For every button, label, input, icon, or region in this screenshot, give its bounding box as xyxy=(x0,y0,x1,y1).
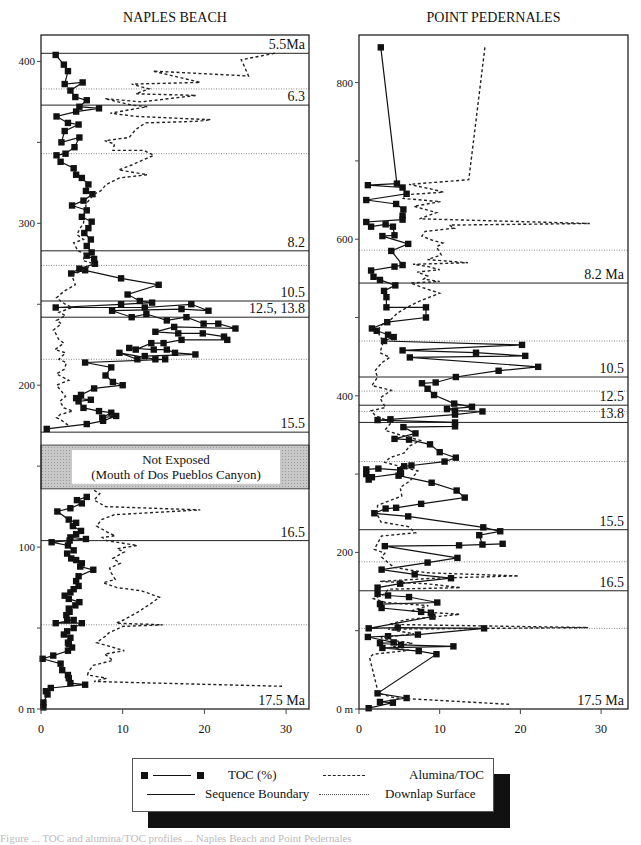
toc-marker xyxy=(64,617,70,623)
toc-marker xyxy=(96,105,102,111)
toc-marker xyxy=(68,270,74,276)
toc-marker xyxy=(70,523,76,529)
toc-marker xyxy=(83,536,89,542)
toc-marker xyxy=(79,175,85,181)
toc-marker xyxy=(88,218,94,224)
toc-marker xyxy=(100,418,106,424)
toc-marker xyxy=(232,325,238,331)
toc-marker xyxy=(70,165,76,171)
age-label: 8.2 Ma xyxy=(584,267,624,282)
toc-marker xyxy=(453,487,459,493)
toc-marker xyxy=(365,705,371,711)
toc-marker xyxy=(385,592,391,598)
age-label: 10.5 xyxy=(281,285,306,300)
toc-marker xyxy=(61,61,67,67)
toc-marker-icon xyxy=(197,772,204,779)
toc-marker xyxy=(128,314,134,320)
toc-marker xyxy=(205,308,211,314)
age-label: 12.5, 13.8 xyxy=(249,301,305,316)
toc-marker xyxy=(65,648,71,654)
toc-marker xyxy=(73,531,79,537)
toc-marker xyxy=(476,532,482,538)
toc-marker xyxy=(84,421,90,427)
toc-marker xyxy=(400,206,406,212)
toc-marker xyxy=(419,380,425,386)
toc-marker xyxy=(381,288,387,294)
toc-marker xyxy=(65,68,71,74)
toc-marker xyxy=(164,346,170,352)
toc-marker xyxy=(164,317,170,323)
toc-marker xyxy=(432,379,438,385)
toc-marker xyxy=(171,324,177,330)
toc-marker xyxy=(53,620,59,626)
alumina-toc-series xyxy=(53,53,274,425)
y-tick-label: 0 m xyxy=(336,703,353,715)
toc-marker xyxy=(405,241,411,247)
y-tick-label: 0 m xyxy=(18,703,35,715)
toc-marker xyxy=(415,631,421,637)
toc-marker xyxy=(70,617,76,623)
toc-marker xyxy=(469,404,475,410)
toc-marker xyxy=(160,340,166,346)
y-tick-label: 800 xyxy=(337,77,354,89)
toc-marker xyxy=(118,301,124,307)
toc-marker xyxy=(133,346,139,352)
toc-marker xyxy=(406,594,412,600)
toc-marker xyxy=(61,81,67,87)
x-tick-label: 20 xyxy=(198,722,210,736)
toc-marker xyxy=(383,294,389,300)
toc-marker xyxy=(391,232,397,238)
toc-marker xyxy=(44,691,50,697)
toc-marker xyxy=(53,113,59,119)
toc-marker xyxy=(452,411,458,417)
toc-marker xyxy=(79,500,85,506)
toc-marker xyxy=(473,350,479,356)
legend: TOC (%) Alumina/TOC Sequence Boundary Do… xyxy=(132,758,494,812)
age-label: 5.5Ma xyxy=(269,37,306,52)
toc-marker xyxy=(369,474,375,480)
toc-marker xyxy=(497,528,503,534)
toc-marker xyxy=(72,94,78,100)
toc-marker xyxy=(72,602,78,608)
toc-marker xyxy=(58,139,64,145)
toc-marker xyxy=(462,494,468,500)
naples-beach-chart: NAPLES BEACHNot Exposed(Mouth of Dos Pue… xyxy=(18,10,309,736)
toc-marker xyxy=(148,340,154,346)
toc-marker xyxy=(70,625,76,631)
toc-marker xyxy=(200,330,206,336)
toc-marker xyxy=(378,605,384,611)
toc-marker xyxy=(126,345,132,351)
toc-marker xyxy=(109,308,115,314)
toc-marker xyxy=(379,645,385,651)
y-tick-label: 400 xyxy=(337,390,354,402)
x-tick-label: 30 xyxy=(595,722,607,736)
toc-marker xyxy=(82,359,88,365)
toc-marker xyxy=(175,330,181,336)
toc-marker xyxy=(183,314,189,320)
toc-marker xyxy=(383,304,389,310)
toc-marker xyxy=(75,121,81,127)
toc-marker xyxy=(48,539,54,545)
toc-marker xyxy=(66,516,72,522)
toc-marker xyxy=(62,150,68,156)
toc-marker xyxy=(67,505,73,511)
toc-marker xyxy=(427,441,433,447)
toc-marker xyxy=(418,501,424,507)
toc-marker xyxy=(65,542,71,548)
toc-marker xyxy=(83,188,89,194)
age-label: 16.5 xyxy=(600,575,625,590)
age-label: 6.3 xyxy=(288,89,306,104)
toc-marker xyxy=(73,557,79,563)
toc-marker xyxy=(456,542,462,548)
age-label: 17.5 Ma xyxy=(577,693,624,708)
toc-marker xyxy=(108,364,114,370)
toc-marker xyxy=(137,298,143,304)
toc-marker xyxy=(57,660,63,666)
toc-marker xyxy=(397,581,403,587)
toc-marker xyxy=(428,480,434,486)
toc-marker xyxy=(385,332,391,338)
toc-marker xyxy=(82,682,88,688)
toc-marker xyxy=(395,472,401,478)
toc-marker xyxy=(479,408,485,414)
toc-marker xyxy=(88,236,94,242)
